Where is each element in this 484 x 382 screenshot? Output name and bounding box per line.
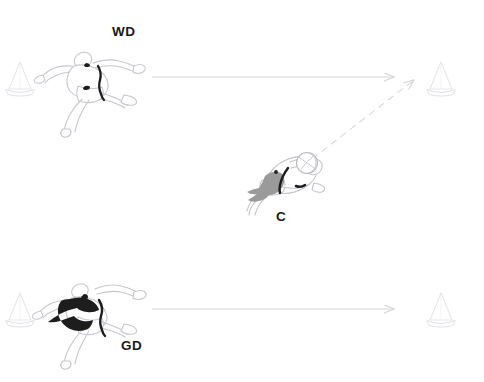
drill-vector-layer — [0, 0, 484, 382]
cone-top-left — [6, 62, 34, 96]
label-gd: GD — [121, 339, 142, 353]
wd-foot-front — [121, 95, 137, 105]
cone-bottom-left — [6, 293, 34, 327]
gd-arm-lead-lower — [97, 291, 135, 297]
gd-hand-lead — [133, 291, 146, 300]
arrow-c-pass — [312, 80, 414, 159]
wd-hand-trail — [34, 75, 45, 83]
player-c — [247, 153, 325, 216]
cone-base-icon — [6, 321, 34, 328]
wd-foot-back — [61, 129, 71, 137]
c-foot-front — [312, 183, 325, 192]
c-collar-mark — [274, 170, 278, 174]
gd-leg-back — [64, 330, 82, 363]
gd-hand-trail — [32, 311, 43, 319]
cone-bottom-right — [427, 293, 455, 327]
cone-base-icon — [6, 90, 34, 97]
cone-base-icon — [427, 90, 455, 97]
cone-top-right — [427, 62, 455, 96]
gd-foot-back — [61, 361, 71, 369]
player-gd — [32, 281, 146, 369]
cone-base-icon — [427, 321, 455, 328]
gd-foot-front — [121, 324, 137, 334]
drill-diagram-canvas: WD C GD — [0, 0, 484, 382]
label-c: C — [276, 210, 286, 224]
c-ball — [297, 153, 318, 174]
wd-leg-back — [64, 99, 82, 131]
label-wd: WD — [112, 25, 135, 39]
player-wd — [34, 49, 145, 137]
wd-hand-lead — [133, 65, 145, 74]
